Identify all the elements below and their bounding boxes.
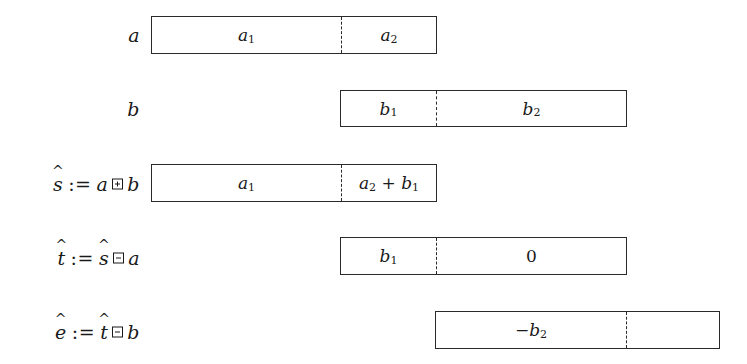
label-var: a	[128, 24, 140, 46]
segment-text: −b	[515, 320, 540, 340]
register-b: b1 b2	[340, 90, 627, 127]
subscript: 1	[248, 33, 255, 46]
register-t-hat: b1 0	[340, 237, 627, 275]
label-var-hat: t	[57, 249, 65, 268]
label-var-hat: s	[53, 175, 63, 194]
label-operand-hat: s	[99, 249, 109, 268]
subscript: 1	[412, 181, 419, 194]
segment-t2: 0	[437, 238, 626, 274]
register-s-hat: a1 a2 + b1	[151, 164, 437, 202]
label-operand: a	[128, 247, 140, 269]
assign-operator: :=	[72, 321, 95, 343]
row-label-t-hat: t:=sa	[57, 249, 140, 268]
segment-b1: b1	[341, 91, 437, 126]
segment-text: a	[238, 173, 248, 193]
segment-text: b	[523, 99, 534, 119]
segment-t1: b1	[341, 238, 437, 274]
assign-operator: :=	[68, 173, 91, 195]
segment-text: b	[401, 173, 412, 193]
segment-a1: a1	[152, 17, 342, 53]
label-operand: a	[97, 173, 109, 195]
row-label-s-hat: s:=ab	[53, 175, 140, 194]
subscript: 2	[540, 328, 547, 341]
segment-text: 0	[526, 246, 537, 266]
register-e-hat: −b2	[435, 311, 720, 349]
segment-text: b	[380, 99, 391, 119]
segment-s2: a2 + b1	[342, 165, 436, 201]
label-var-hat: e	[55, 323, 67, 342]
boxplus-icon	[112, 179, 123, 190]
boxminus-icon	[113, 253, 124, 264]
subscript: 2	[369, 181, 376, 194]
segment-b2: b2	[437, 91, 626, 126]
row-label-a: a	[128, 26, 140, 45]
label-var: b	[127, 98, 140, 120]
label-operand-hat: t	[100, 323, 108, 342]
segment-text: a	[238, 25, 248, 45]
label-operand: b	[127, 321, 140, 343]
segment-a2: a2	[342, 17, 436, 53]
subscript: 1	[390, 106, 397, 119]
segment-text: a	[380, 25, 390, 45]
subscript: 1	[390, 254, 397, 267]
segment-text: b	[380, 246, 391, 266]
subscript: 2	[533, 106, 540, 119]
segment-e2	[627, 312, 719, 348]
row-label-b: b	[127, 100, 140, 119]
plus-sign: +	[376, 173, 401, 193]
segment-s1: a1	[152, 165, 342, 201]
assign-operator: :=	[71, 247, 94, 269]
segment-text: a	[359, 173, 369, 193]
subscript: 2	[391, 33, 398, 46]
label-operand: b	[127, 173, 140, 195]
subscript: 1	[248, 181, 255, 194]
register-a: a1 a2	[151, 16, 437, 54]
boxminus-icon	[112, 327, 123, 338]
segment-e1: −b2	[436, 312, 627, 348]
row-label-e-hat: e:=tb	[55, 323, 140, 342]
